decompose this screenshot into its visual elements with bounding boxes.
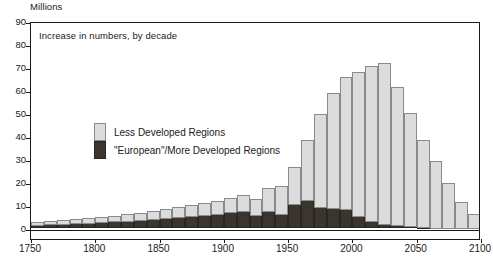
y-tick-50	[26, 115, 31, 116]
bar-segment-less-developed	[288, 167, 301, 205]
y-tick-label-90: 90	[3, 17, 26, 27]
bar-2080	[455, 23, 468, 239]
bar-segment-less-developed	[44, 221, 57, 225]
y-tick-label-70: 70	[3, 63, 26, 73]
y-tick-label-10: 10	[3, 201, 26, 211]
bar-segment-less-developed	[121, 214, 134, 221]
bar-2040	[404, 23, 417, 239]
bar-segment-more-developed	[121, 221, 134, 228]
bar-2050	[417, 23, 430, 239]
x-tick-label-1900: 1900	[203, 243, 243, 254]
y-axis-unit-label: Millions	[30, 1, 62, 12]
bar-2070	[442, 23, 455, 239]
y-tick-30	[26, 161, 31, 162]
bar-segment-less-developed	[172, 207, 185, 218]
bar-segment-more-developed	[327, 208, 340, 227]
bar-segment-less-developed	[237, 195, 250, 213]
bar-segment-more-developed	[365, 221, 378, 228]
y-tick-label-20: 20	[3, 178, 26, 188]
bar-segment-less-developed	[340, 77, 353, 210]
bar-segment-less-developed	[262, 188, 275, 212]
bar-segment-less-developed	[250, 199, 263, 216]
y-tick-20	[26, 184, 31, 185]
legend-item-more-developed: "European"/More Developed Regions	[94, 141, 280, 159]
bar-2020	[378, 23, 391, 239]
bar-1990	[340, 23, 353, 239]
bar-segment-more-developed	[224, 212, 237, 227]
bar-segment-less-developed	[31, 222, 44, 226]
bar-segment-less-developed	[365, 66, 378, 222]
bar-segment-more-developed	[314, 207, 327, 228]
population-increase-chart: Millions 0102030405060708090 Increase in…	[0, 0, 493, 266]
bar-segment-more-developed	[198, 215, 211, 228]
x-tick-label-2100: 2100	[460, 243, 493, 254]
bar-segment-less-developed	[352, 72, 365, 216]
bar-segment-less-developed	[404, 113, 417, 227]
bar-segment-less-developed	[198, 203, 211, 216]
bar-segment-less-developed	[211, 201, 224, 215]
bar-segment-more-developed	[288, 204, 301, 227]
y-tick-label-30: 30	[3, 155, 26, 165]
bar-segment-less-developed	[391, 87, 404, 226]
x-tick-label-2000: 2000	[331, 243, 371, 254]
x-tick-label-1850: 1850	[139, 243, 179, 254]
x-tick-label-2050: 2050	[396, 243, 436, 254]
chart-annotation: Increase in numbers, by decade	[39, 30, 177, 41]
y-tick-0	[26, 230, 31, 231]
y-tick-10	[26, 207, 31, 208]
bar-segment-less-developed	[327, 93, 340, 210]
bar-segment-more-developed	[250, 215, 263, 228]
bar-segment-less-developed	[417, 140, 430, 228]
y-tick-40	[26, 138, 31, 139]
bar-2000	[352, 23, 365, 239]
bar-segment-less-developed	[314, 114, 327, 208]
bar-2030	[391, 23, 404, 239]
bar-segment-less-developed	[430, 161, 443, 229]
y-tick-label-60: 60	[3, 86, 26, 96]
x-tick-label-1950: 1950	[267, 243, 307, 254]
y-tick-90	[26, 23, 31, 24]
bar-segment-less-developed	[185, 205, 198, 217]
chart-legend: Less Developed Regions "European"/More D…	[94, 123, 280, 159]
zero-baseline	[31, 230, 479, 231]
plot-area: Increase in numbers, by decade Less Deve…	[30, 22, 480, 240]
bar-1950	[288, 23, 301, 239]
bar-segment-more-developed	[172, 217, 185, 228]
bar-segment-less-developed	[147, 211, 160, 220]
bar-1780	[70, 23, 83, 239]
y-tick-60	[26, 92, 31, 93]
bar-segment-more-developed	[301, 200, 314, 228]
bar-segment-more-developed	[262, 211, 275, 228]
bar-1960	[301, 23, 314, 239]
bar-segment-less-developed	[301, 140, 314, 201]
legend-item-less-developed: Less Developed Regions	[94, 123, 280, 141]
bar-segment-less-developed	[468, 214, 479, 228]
legend-swatch-more-developed	[94, 141, 106, 159]
bar-1970	[314, 23, 327, 239]
bar-1980	[327, 23, 340, 239]
bar-segment-less-developed	[134, 213, 147, 221]
y-tick-label-40: 40	[3, 132, 26, 142]
bar-segment-more-developed	[160, 218, 173, 228]
y-tick-80	[26, 46, 31, 47]
bar-segment-less-developed	[275, 186, 288, 215]
bar-segment-less-developed	[95, 217, 108, 223]
bar-segment-more-developed	[211, 214, 224, 228]
bar-2060	[430, 23, 443, 239]
bar-segment-more-developed	[185, 216, 198, 227]
bar-segment-less-developed	[108, 216, 121, 223]
bar-segment-more-developed	[134, 220, 147, 228]
bar-1760	[44, 23, 57, 239]
x-tick-label-1800: 1800	[74, 243, 114, 254]
y-tick-70	[26, 69, 31, 70]
bar-2090	[468, 23, 479, 239]
bar-segment-less-developed	[224, 198, 237, 213]
x-tick-label-1750: 1750	[10, 243, 50, 254]
bar-segment-more-developed	[147, 219, 160, 228]
bar-segment-less-developed	[57, 220, 70, 224]
bar-segment-more-developed	[275, 214, 288, 228]
y-tick-label-50: 50	[3, 109, 26, 119]
legend-label-more-developed: "European"/More Developed Regions	[114, 145, 280, 156]
bar-segment-more-developed	[237, 211, 250, 227]
legend-label-less-developed: Less Developed Regions	[114, 127, 225, 138]
